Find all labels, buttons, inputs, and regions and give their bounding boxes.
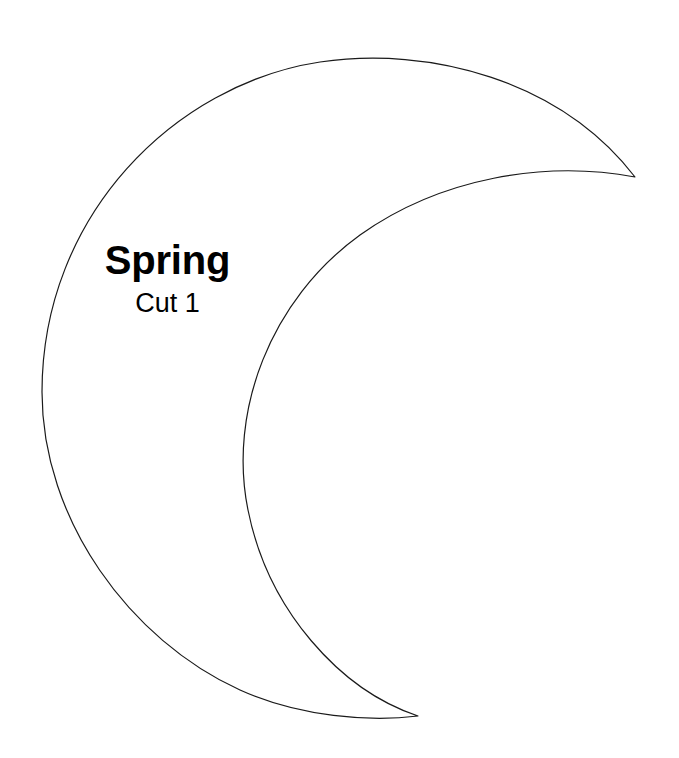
crescent-outline-path [42, 58, 635, 718]
template-canvas: Spring Cut 1 [0, 0, 679, 758]
crescent-moon-shape [0, 0, 679, 758]
